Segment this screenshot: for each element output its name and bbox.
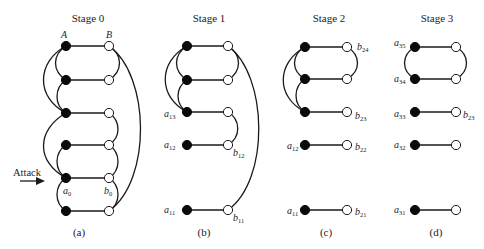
node-label-a0: a0 — [63, 185, 71, 197]
attack-label: Attack — [13, 167, 42, 178]
caption-d: (d) — [430, 226, 443, 239]
node-hollow — [223, 140, 232, 149]
stage-1-nodes — [182, 41, 232, 214]
stage-1-edges — [165, 46, 259, 210]
node-filled — [61, 75, 70, 84]
node-label-a11: a11 — [164, 204, 175, 216]
caption-a: (a) — [73, 226, 86, 239]
node-label-a12: a12 — [287, 140, 299, 152]
node-label-b11: b11 — [233, 212, 244, 224]
node-label-b23: b23 — [463, 109, 475, 121]
panel-stage-2: Stage 2 b24 b23 a12 b22 a11 — [283, 12, 369, 239]
node-filled — [300, 140, 309, 149]
node-filled — [410, 42, 419, 51]
panel-stage-1: Stage 1 a13 a12 b12 — [164, 12, 259, 239]
node-label-b24: b24 — [357, 41, 369, 53]
stage-2-edges — [283, 47, 357, 210]
node-hollow — [342, 205, 351, 214]
arrow-head-icon — [36, 177, 45, 185]
node-hollow — [342, 42, 351, 51]
column-label-b: B — [106, 29, 112, 40]
node-label-b22: b22 — [355, 141, 367, 153]
node-hollow — [342, 74, 351, 83]
node-label-b23: b23 — [355, 110, 367, 122]
stage-1-title: Stage 1 — [193, 12, 226, 24]
node-filled — [61, 173, 70, 182]
caption-c: (c) — [320, 226, 333, 239]
node-hollow — [104, 108, 113, 117]
node-hollow — [342, 107, 351, 116]
node-label-b21: b21 — [355, 206, 367, 218]
column-label-a: A — [60, 29, 68, 40]
node-hollow — [451, 205, 460, 214]
node-filled — [300, 107, 309, 116]
stage-0-edges — [44, 46, 141, 211]
stage-3-title: Stage 3 — [421, 12, 454, 24]
node-hollow — [451, 140, 460, 149]
node-filled — [182, 205, 191, 214]
node-label-a13: a13 — [164, 108, 176, 120]
node-hollow — [342, 140, 351, 149]
node-hollow — [451, 42, 460, 51]
node-filled — [182, 107, 191, 116]
node-hollow — [104, 75, 113, 84]
diagram-canvas: Stage 0 A B — [0, 0, 484, 249]
node-label-b0: b0 — [104, 185, 112, 197]
node-hollow — [223, 75, 232, 84]
node-hollow — [223, 205, 232, 214]
node-filled — [61, 108, 70, 117]
stage-3-edges — [405, 47, 467, 210]
stage-3-nodes — [410, 42, 460, 214]
stage-0-title: Stage 0 — [72, 12, 105, 24]
node-filled — [61, 41, 70, 50]
node-label-a11: a11 — [287, 205, 298, 217]
stage-2-nodes — [300, 42, 351, 214]
node-filled — [300, 74, 309, 83]
node-filled — [182, 41, 191, 50]
node-label-a31: a31 — [394, 204, 406, 216]
node-hollow — [223, 107, 232, 116]
node-filled — [182, 140, 191, 149]
stage-2-title: Stage 2 — [313, 12, 346, 24]
node-filled — [410, 205, 419, 214]
node-label-a32: a32 — [394, 139, 406, 151]
node-filled — [300, 42, 309, 51]
node-hollow — [451, 74, 460, 83]
node-filled — [300, 205, 309, 214]
node-filled — [182, 75, 191, 84]
caption-b: (b) — [198, 226, 211, 239]
node-filled — [410, 74, 419, 83]
node-label-a33: a33 — [394, 108, 406, 120]
node-hollow — [451, 107, 460, 116]
node-filled — [61, 206, 70, 215]
panel-stage-0: Stage 0 A B — [13, 12, 141, 239]
panel-stage-3: Stage 3 a35 a34 a33 b23 a32 a31 ( — [394, 12, 475, 239]
node-hollow — [104, 206, 113, 215]
node-filled — [61, 140, 70, 149]
node-hollow — [104, 140, 113, 149]
node-hollow — [223, 41, 232, 50]
node-filled — [410, 107, 419, 116]
node-filled — [410, 140, 419, 149]
attack-arrow: Attack — [13, 167, 45, 185]
node-label-a35: a35 — [394, 37, 406, 49]
node-hollow — [104, 173, 113, 182]
node-hollow — [104, 41, 113, 50]
node-label-a12: a12 — [164, 139, 176, 151]
node-label-b12: b12 — [233, 147, 245, 159]
node-label-a34: a34 — [394, 73, 406, 85]
